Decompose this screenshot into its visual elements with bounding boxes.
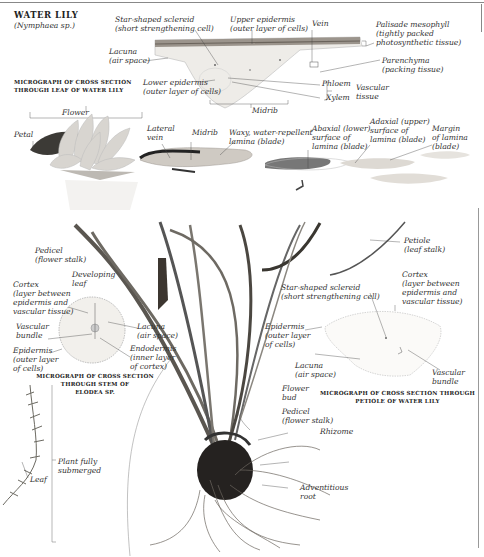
label-pedicel-top: Pedicel (flower stalk)	[35, 246, 86, 264]
diagram-title: WATER LILY	[14, 10, 78, 20]
label-plant-fully-submerged: Plant fully submerged	[58, 457, 101, 475]
elodea-sprig	[3, 385, 56, 542]
label-epidermis-petiole: Epidermis (outer layer of cells)	[265, 322, 310, 349]
label-petiole: Petiole (leaf stalk)	[404, 236, 445, 254]
label-cortex-petiole: Cortex (layer between epidermis and vasc…	[402, 270, 462, 306]
petiole-cross-section	[305, 240, 441, 376]
label-developing-leaf: Developing leaf	[72, 270, 115, 288]
label-abaxial-surface: Abaxial (lower) surface of lamina (blade…	[312, 124, 371, 151]
label-vascular-bundle-petiole: Vascular bundle	[432, 368, 465, 386]
label-phloem: Phloem	[322, 79, 351, 88]
label-cortex-elodea: Cortex (layer between epidermis and vasc…	[13, 280, 73, 316]
label-lacuna-elodea: Lacuna (air space)	[137, 322, 178, 340]
label-palisade-mesophyll: Palisade mesophyll (tightly packed photo…	[376, 20, 461, 47]
label-lacuna-petiole: Lacuna (air space)	[295, 361, 336, 379]
label-adventitious-root: Adventitious root	[300, 483, 348, 501]
label-lacuna-leaf: Lacuna (air space)	[109, 47, 150, 65]
label-midrib-micrograph: Midrib	[252, 106, 278, 115]
petiole-micrograph-caption: MICROGRAPH OF CROSS SECTION THROUGH PETI…	[310, 389, 484, 405]
label-vascular-bundle-elodea: Vascular bundle	[16, 322, 49, 340]
label-leaf-elodea: Leaf	[30, 475, 47, 484]
label-vein: Vein	[312, 19, 329, 28]
label-xylem: Xylem	[326, 93, 350, 102]
label-epidermis-elodea: Epidermis (outer layer of cells)	[13, 346, 58, 373]
label-flower-bud: Flower bud	[282, 384, 309, 402]
label-rhizome: Rhizome	[320, 427, 353, 436]
label-vascular-tissue: Vascular tissue	[356, 83, 389, 101]
diagram-subtitle: (Nymphaea sp.)	[14, 21, 75, 30]
elodea-micrograph-caption: MICROGRAPH OF CROSS SECTION THROUGH STEM…	[30, 372, 160, 396]
label-parenchyma: Parenchyma (packing tissue)	[382, 56, 443, 74]
label-lateral-vein: Lateral vein	[147, 124, 175, 142]
label-petal: Petal	[14, 130, 33, 139]
label-lower-epidermis: Lower epidermis (outer layer of cells)	[143, 78, 221, 96]
label-waxy-lamina: Waxy, water-repellent lamina (blade)	[229, 128, 313, 146]
label-flower: Flower	[62, 108, 89, 117]
label-margin-of-lamina: Margin of lamina (blade)	[432, 124, 468, 151]
label-midrib-leaf: Midrib	[192, 128, 218, 137]
label-star-sclereid-leaf: Star-shaped sclereid (short strengthenin…	[115, 15, 214, 33]
leaf-micrograph-caption: MICROGRAPH OF CROSS SECTION THROUGH LEAF…	[14, 78, 132, 94]
label-adaxial-surface: Adaxial (upper) surface of lamina (blade…	[370, 117, 430, 144]
label-upper-epidermis: Upper epidermis (outer layer of cells)	[230, 15, 308, 33]
label-endodermis: Endodermis (inner layer of cortex)	[130, 344, 176, 371]
label-pedicel-bottom: Pedicel (flower stalk)	[282, 407, 333, 425]
label-star-sclereid-petiole: Star-shaped sclereid (short strengthenin…	[281, 283, 380, 301]
